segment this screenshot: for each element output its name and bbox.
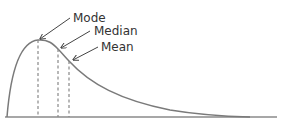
mean-arrow [73,47,98,60]
median-label: Median [94,24,138,38]
skewed-distribution-diagram: Mode Median Mean [0,0,286,123]
median-arrow [61,31,90,48]
mode-arrow [40,18,70,39]
mode-label: Mode [73,11,106,25]
mean-label: Mean [101,40,134,54]
diagram-svg: Mode Median Mean [0,0,286,123]
